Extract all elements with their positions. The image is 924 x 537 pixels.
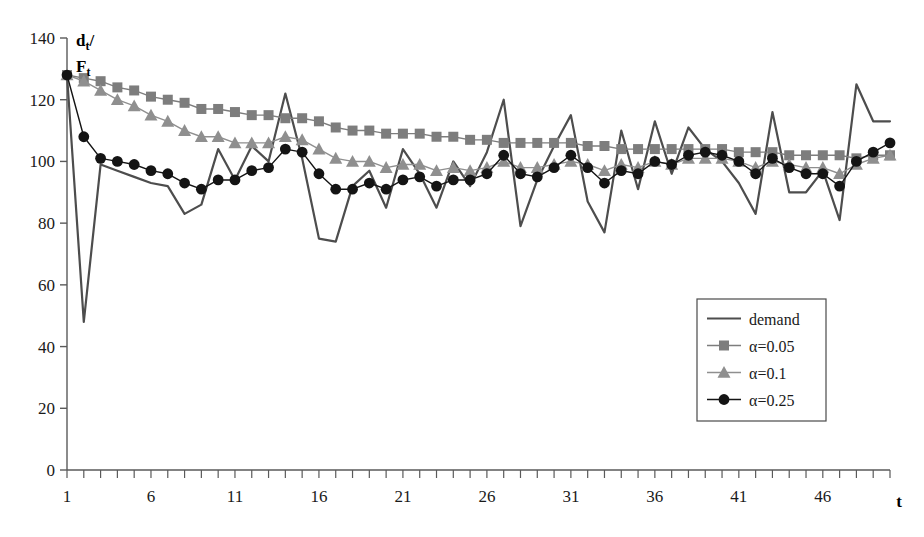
x-tick-label: 46	[814, 487, 831, 506]
legend-label: demand	[749, 311, 800, 328]
legend-label: α=0.25	[749, 392, 794, 409]
y-tick-label: 20	[38, 399, 55, 418]
y-tick-label: 100	[30, 152, 56, 171]
x-tick-label: 1	[63, 487, 72, 506]
axis-titles: dt/ Ft t	[76, 31, 902, 511]
x-tick-label: 11	[227, 487, 243, 506]
y-tick-label: 40	[38, 338, 55, 357]
legend: demandα=0.05α=0.1α=0.25	[697, 299, 826, 421]
y-tick-label: 60	[38, 276, 55, 295]
chart-container: 020406080100120140 161116212631364146 dt…	[0, 0, 924, 537]
x-axis: 161116212631364146	[63, 470, 890, 506]
y-tick-label: 140	[30, 29, 56, 48]
y-axis: 020406080100120140	[30, 29, 68, 480]
x-axis-title: t	[896, 492, 902, 511]
legend-label: α=0.1	[749, 365, 786, 382]
legend-label: α=0.05	[749, 338, 794, 355]
y-axis-title-line2: Ft	[76, 57, 90, 79]
series-demand	[67, 75, 890, 322]
x-tick-label: 16	[310, 487, 327, 506]
x-tick-label: 26	[478, 487, 495, 506]
x-tick-label: 36	[646, 487, 663, 506]
series--0-05	[62, 70, 895, 163]
y-tick-label: 0	[47, 461, 56, 480]
data-series-group	[61, 69, 897, 322]
x-tick-label: 21	[394, 487, 411, 506]
line-chart: 020406080100120140 161116212631364146 dt…	[0, 0, 924, 537]
x-tick-label: 41	[730, 487, 747, 506]
x-tick-label: 6	[147, 487, 156, 506]
y-axis-title-line1: dt/	[76, 31, 94, 53]
y-tick-label: 120	[30, 91, 56, 110]
x-tick-label: 31	[562, 487, 579, 506]
y-tick-label: 80	[38, 214, 55, 233]
